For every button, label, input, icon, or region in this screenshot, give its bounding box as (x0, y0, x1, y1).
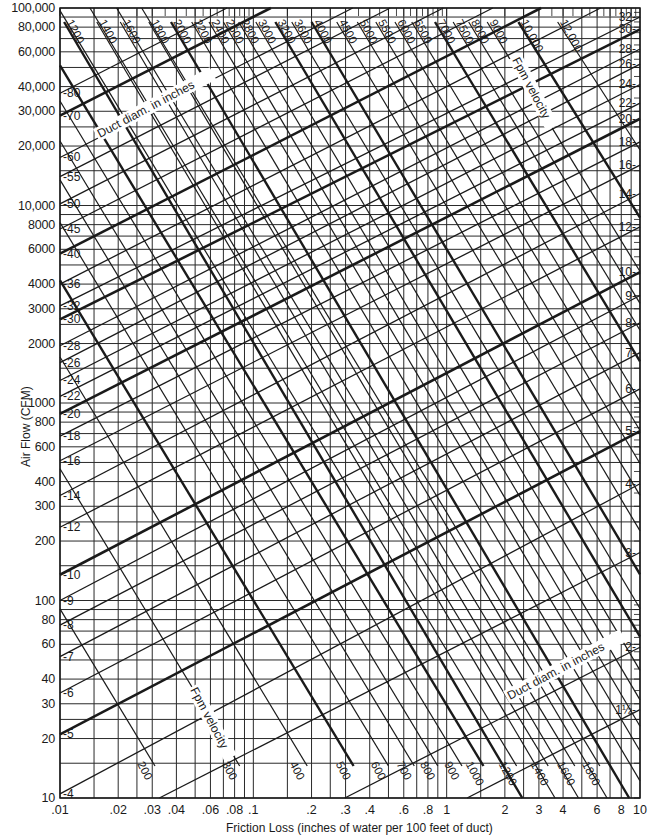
diameter-label-right: 5- (625, 424, 636, 438)
velocity-line-600 (60, 223, 388, 766)
x-tick-label: 3 (535, 803, 542, 817)
velocity-line-2800 (239, 22, 640, 700)
diameter-line-30 (60, 29, 640, 319)
diameter-label-left: -5 (63, 727, 74, 741)
velocity-line-500 (60, 280, 354, 766)
x-tick-label: .03 (144, 803, 161, 817)
x-tick-label: 2 (501, 803, 508, 817)
x-tick-label: .08 (226, 803, 243, 817)
velocity-label-top: 1400 (97, 17, 120, 45)
diameter-label-right: 18- (619, 135, 636, 149)
diameter-label-left: -60 (63, 150, 81, 164)
duct-friction-chart: -80-70-60-55-50-45-40-36-32-30-28-26-24-… (0, 0, 653, 837)
diameter-line-9 (60, 296, 640, 601)
diameter-label-right: 26- (619, 57, 636, 71)
diameter-label-right: 6- (625, 382, 636, 396)
velocity-line-4500 (337, 22, 640, 531)
velocity-label-bottom: 300 (220, 759, 240, 782)
y-tick-label: 80 (41, 613, 55, 627)
diameter-line-28 (60, 49, 640, 346)
y-tick-label: 6000 (28, 242, 55, 256)
velocity-label-top: 4500 (337, 17, 360, 45)
y-tick-label: 100 (35, 594, 55, 608)
diameter-label-right: 24- (619, 77, 636, 91)
y-tick-label: 2000 (28, 337, 55, 351)
velocity-label-top: 10,000 (519, 17, 546, 54)
velocity-label-bottom: 800 (418, 759, 438, 782)
x-tick-label: .6 (399, 803, 409, 817)
y-tick-label: 60 (41, 637, 55, 651)
velocity-line-3000 (256, 22, 640, 670)
y-tick-label: 100,000 (11, 1, 55, 15)
diameter-label-right: 20- (619, 112, 636, 126)
x-tick-label: .02 (109, 803, 126, 817)
y-tick-label: 300 (35, 499, 55, 513)
y-tick-label: 8000 (28, 218, 55, 232)
y-tick-label: 20,000 (18, 139, 55, 153)
y-tick-label: 60,000 (18, 45, 55, 59)
x-tick-label: .1 (248, 803, 258, 817)
diameter-label-left: -45 (63, 222, 81, 236)
y-tick-label: 800 (35, 415, 55, 429)
diameter-line-12 (60, 227, 640, 527)
diameter-label-right: 16- (619, 158, 636, 172)
x-tick-label: 10 (633, 803, 647, 817)
x-tick-label: .04 (168, 803, 185, 817)
x-tick-label: .4 (365, 803, 375, 817)
right-edge-tick-ruler (634, 12, 640, 798)
y-tick-label: 30,000 (18, 104, 55, 118)
diameter-label-left: -26 (63, 356, 81, 370)
velocity-label-top: 6500 (412, 17, 435, 45)
diameter-label-left: -16 (63, 454, 81, 468)
diameter-label-right: 30- (619, 22, 636, 36)
velocity-label-top: 3000 (256, 17, 279, 45)
diameter-label-left: -28 (63, 339, 81, 353)
y-tick-label: 200 (35, 534, 55, 548)
x-tick-label: 6 (594, 803, 601, 817)
x-tick-label: .3 (340, 803, 350, 817)
svg-text:Fpm velocity: Fpm velocity (187, 685, 231, 751)
x-axis-title: Friction Loss (inches of water per 100 f… (226, 821, 493, 835)
velocity-line-2600 (223, 22, 640, 726)
diameter-label-left: -22 (63, 389, 81, 403)
diameter-label-left: -6 (63, 686, 74, 700)
velocity-line-800 (60, 141, 438, 766)
velocity-label-top: 2000 (171, 17, 194, 45)
y-tick-label: 40,000 (18, 80, 55, 94)
x-tick-label: 8 (618, 803, 625, 817)
velocity-label-bottom: 400 (287, 759, 307, 782)
annotation-lower-right: Duct diam. in inches (503, 629, 626, 703)
y-tick-label: 400 (35, 475, 55, 489)
x-tick-label: 4 (560, 803, 567, 817)
velocity-label-bottom: 600 (369, 759, 389, 782)
diameter-label-left: -14 (63, 489, 81, 503)
velocity-label-top: 1200 (64, 17, 87, 45)
velocity-line-2000 (171, 22, 629, 798)
x-tick-label: .8 (423, 803, 433, 817)
diameter-label-right: 28- (619, 42, 636, 56)
velocity-label-top: 1600 (121, 17, 144, 45)
diameter-label-left: -20 (63, 407, 81, 421)
diameter-label-right: 12- (619, 220, 636, 234)
y-tick-label: 4000 (28, 277, 55, 291)
y-tick-label: 3000 (28, 302, 55, 316)
velocity-label-top: 12,000 (558, 17, 585, 54)
diameter-label-right: 22- (619, 96, 636, 110)
diameter-label-left: -18 (63, 429, 81, 443)
y-tick-label: 600 (35, 440, 55, 454)
diameter-label-left: -12 (63, 520, 81, 534)
y-tick-label: 20 (41, 732, 55, 746)
x-tick-label: .06 (202, 803, 219, 817)
y-tick-label: 10,000 (18, 199, 55, 213)
diameter-label-left: -9 (63, 594, 74, 608)
y-tick-label: 80,000 (18, 20, 55, 34)
velocity-line-8000 (469, 22, 640, 303)
diameter-label-left: -7 (63, 650, 74, 664)
diameter-label-left: -10 (63, 568, 81, 582)
velocity-line-700 (60, 180, 414, 766)
x-tick-label: .01 (51, 803, 68, 817)
diameter-label-left: -40 (63, 247, 81, 261)
diameter-label-left: -30 (63, 312, 81, 326)
velocity-label-top: 9000 (487, 17, 510, 45)
y-axis-title: Air Flow (CFM) (19, 387, 33, 467)
